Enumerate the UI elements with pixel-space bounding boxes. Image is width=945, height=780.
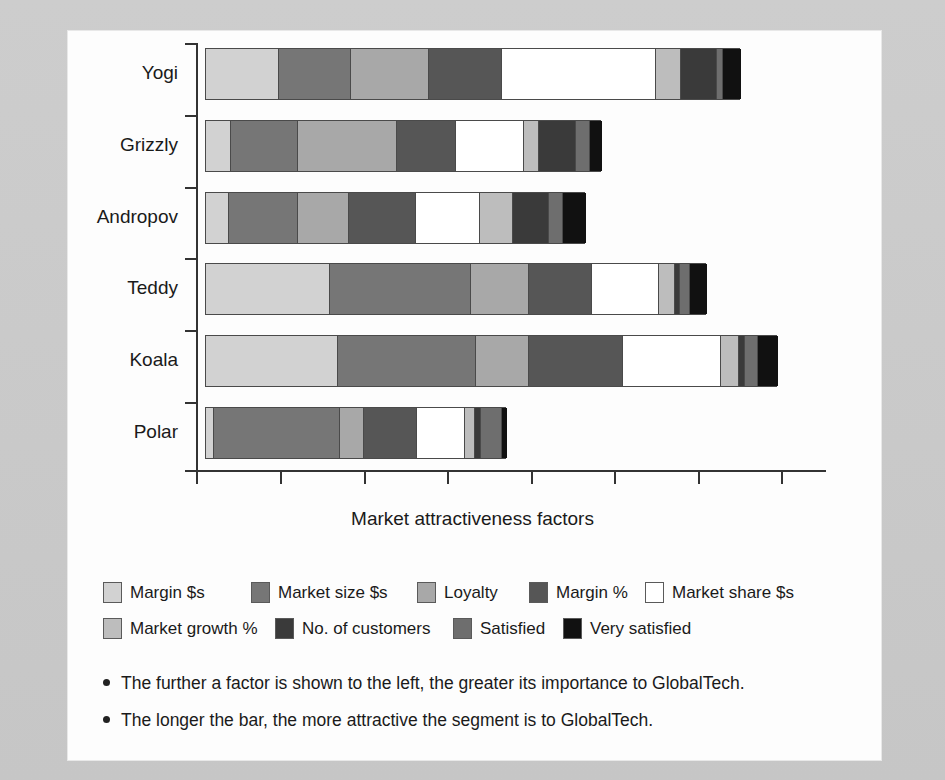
scanned-page-background: YogiGrizzlyAndropovTeddyKoalaPolar Marke… (0, 0, 945, 780)
y-axis-tick (185, 402, 197, 404)
note-text: The further a factor is shown to the lef… (121, 672, 745, 695)
bar-segment (745, 336, 758, 386)
bar-segment (279, 49, 351, 99)
bar-segment (429, 49, 501, 99)
bar-segment (529, 336, 623, 386)
legend-swatch-icon (275, 618, 294, 639)
bar-segment (214, 408, 339, 458)
legend-item-margin[interactable]: Margin % (529, 582, 645, 603)
notes-list: The further a factor is shown to the lef… (103, 672, 873, 746)
x-axis-tick (531, 471, 533, 484)
legend-item-no-of-customers[interactable]: No. of customers (275, 618, 453, 639)
bar-segment (229, 193, 299, 243)
bar-segment (471, 264, 529, 314)
bar-segment (416, 193, 480, 243)
y-axis-line (196, 43, 198, 471)
bar-segment (330, 264, 471, 314)
bar-segment (340, 408, 364, 458)
y-axis-label-teddy: Teddy (0, 277, 178, 299)
bar-andropov (205, 192, 585, 244)
y-axis-tick (185, 187, 197, 189)
y-axis-tick (185, 43, 197, 45)
note-text: The longer the bar, the more attractive … (121, 709, 653, 732)
bar-segment (721, 336, 739, 386)
bar-segment (206, 408, 214, 458)
legend-item-margin-s[interactable]: Margin $s (103, 582, 251, 603)
bar-segment (623, 336, 721, 386)
y-axis-tick (185, 258, 197, 260)
legend-item-label: Margin % (556, 583, 628, 603)
legend-item-label: Very satisfied (590, 619, 691, 639)
y-axis-label-koala: Koala (0, 349, 178, 371)
bar-koala (205, 335, 777, 387)
y-axis-label-grizzly: Grizzly (0, 134, 178, 156)
legend-swatch-icon (563, 618, 582, 639)
bar-segment (231, 121, 298, 171)
bar-segment (364, 408, 417, 458)
bar-segment (656, 49, 681, 99)
bar-segment (456, 121, 524, 171)
bar-segment (502, 49, 657, 99)
x-axis-tick (447, 471, 449, 484)
legend-swatch-icon (453, 618, 472, 639)
legend-item-label: Market growth % (130, 619, 258, 639)
bar-segment (758, 336, 778, 386)
legend-row-1: Margin $sMarket size $sLoyaltyMargin %Ma… (103, 582, 863, 603)
y-axis-label-yogi: Yogi (0, 62, 178, 84)
y-axis-tick (185, 330, 197, 332)
bullet-icon (103, 679, 110, 686)
bar-segment (690, 264, 707, 314)
bar-segment (351, 49, 429, 99)
legend-item-market-growth[interactable]: Market growth % (103, 618, 275, 639)
bar-grizzly (205, 120, 601, 172)
bar-segment (681, 49, 716, 99)
legend-item-satisfied[interactable]: Satisfied (453, 618, 563, 639)
x-axis-tick (698, 471, 700, 484)
x-axis-tick (614, 471, 616, 484)
bar-segment (475, 408, 482, 458)
bar-segment (659, 264, 675, 314)
bar-segment (206, 336, 338, 386)
y-axis-label-andropov: Andropov (0, 206, 178, 228)
legend-item-label: No. of customers (302, 619, 431, 639)
bar-teddy (205, 263, 706, 315)
bar-segment (417, 408, 465, 458)
legend-item-label: Margin $s (130, 583, 205, 603)
bar-segment (298, 121, 396, 171)
bar-segment (206, 264, 330, 314)
legend-item-label: Market share $s (672, 583, 794, 603)
bar-segment (717, 49, 724, 99)
bar-segment (590, 121, 602, 171)
x-axis-tick (280, 471, 282, 484)
legend-swatch-icon (529, 582, 548, 603)
bar-segment (502, 408, 507, 458)
note-item: The further a factor is shown to the lef… (103, 672, 873, 695)
note-item: The longer the bar, the more attractive … (103, 709, 873, 732)
x-axis-line (196, 470, 826, 472)
legend-item-market-size-s[interactable]: Market size $s (251, 582, 417, 603)
legend-item-label: Market size $s (278, 583, 388, 603)
bar-segment (549, 193, 563, 243)
bar-segment (349, 193, 416, 243)
legend-swatch-icon (103, 582, 122, 603)
legend-item-very-satisfied[interactable]: Very satisfied (563, 618, 713, 639)
bar-segment (680, 264, 690, 314)
legend-item-market-share-s[interactable]: Market share $s (645, 582, 815, 603)
bar-polar (205, 407, 506, 459)
bar-segment (739, 336, 746, 386)
legend-item-loyalty[interactable]: Loyalty (417, 582, 529, 603)
bar-segment (206, 49, 279, 99)
stacked-bar-chart: YogiGrizzlyAndropovTeddyKoalaPolar Marke… (0, 0, 945, 780)
bar-yogi (205, 48, 740, 100)
bar-segment (397, 121, 457, 171)
x-axis-tick (364, 471, 366, 484)
bar-segment (338, 336, 476, 386)
bar-segment (723, 49, 741, 99)
legend-row-2: Market growth %No. of customersSatisfied… (103, 618, 863, 639)
legend-swatch-icon (251, 582, 270, 603)
bar-segment (465, 408, 475, 458)
bar-segment (524, 121, 538, 171)
bar-segment (513, 193, 548, 243)
y-axis-tick (185, 115, 197, 117)
bar-segment (592, 264, 659, 314)
